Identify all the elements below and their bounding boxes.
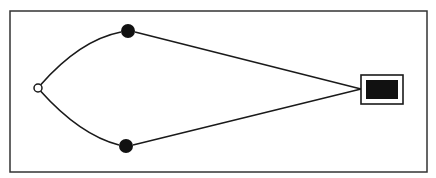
open-circle-node: [34, 84, 42, 92]
target-box-node: [361, 75, 403, 104]
diagram-canvas: [0, 0, 436, 178]
filled-circle-node-upper: [121, 24, 135, 38]
diagram-svg: [0, 0, 436, 178]
target-box-inner: [366, 80, 398, 99]
filled-circle-node-lower: [119, 139, 133, 153]
